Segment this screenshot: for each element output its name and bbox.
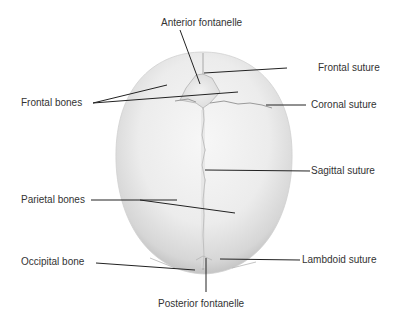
label-frontal-bones: Frontal bones [21, 97, 82, 109]
label-frontal-suture: Frontal suture [318, 62, 380, 74]
label-posterior-fontanelle: Posterior fontanelle [158, 298, 244, 310]
label-coronal-suture: Coronal suture [311, 99, 377, 111]
label-anterior-fontanelle: Anterior fontanelle [161, 17, 242, 29]
skull-diagram [0, 0, 400, 319]
label-parietal-bones: Parietal bones [21, 194, 85, 206]
label-sagittal-suture: Sagittal suture [311, 165, 375, 177]
label-occipital-bone: Occipital bone [21, 256, 84, 268]
label-lambdoid-suture: Lambdoid suture [302, 254, 377, 266]
